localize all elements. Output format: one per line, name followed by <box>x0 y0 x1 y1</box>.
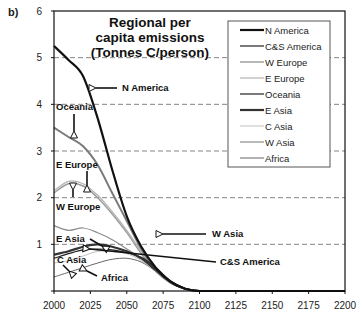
annotation-label: W Asia <box>212 228 244 239</box>
emissions-chart: 123456 200020252050207521002125215021752… <box>0 0 358 313</box>
y-tick-label: 2 <box>36 192 42 203</box>
y-tick-label: 1 <box>36 239 42 250</box>
chart-title-line: Regional per <box>109 15 192 30</box>
series-line-c-s-america <box>54 249 345 291</box>
annotation-label: N America <box>122 82 169 93</box>
chart-title-line: (Tonnes C/person) <box>91 45 209 60</box>
legend-entry: W Asia <box>265 137 295 148</box>
x-tick-label: 2150 <box>261 300 284 311</box>
annotation-label: C Asia <box>57 254 87 265</box>
legend-entry: Oceania <box>265 89 301 100</box>
x-axis-ticks: 200020252050207521002125215021752200 <box>43 291 357 311</box>
legend: N AmericaC&S AmericaW EuropeE EuropeOcea… <box>228 21 330 167</box>
annotation-arrow <box>63 265 69 271</box>
annotation-label: W Europe <box>56 201 100 212</box>
x-tick-label: 2050 <box>116 300 139 311</box>
x-tick-label: 2100 <box>188 300 211 311</box>
x-tick-label: 2075 <box>152 300 175 311</box>
annotation-label: E Asia <box>56 233 85 244</box>
x-tick-label: 2200 <box>334 300 357 311</box>
series-line-w-asia <box>54 226 345 291</box>
series-line-africa <box>54 258 345 291</box>
annotation-label: C&S America <box>220 256 281 267</box>
y-axis-ticks: 123456 <box>36 6 54 292</box>
legend-entry: W Europe <box>265 57 307 68</box>
x-tick-label: 2175 <box>298 300 321 311</box>
series-line-w-europe <box>54 183 345 291</box>
legend-entry: Africa <box>265 153 290 164</box>
x-tick-label: 2025 <box>79 300 102 311</box>
annotation-arrow <box>87 271 97 276</box>
y-tick-label: 4 <box>36 99 42 110</box>
legend-entry: E Asia <box>265 105 293 116</box>
legend-entry: C&S America <box>265 41 322 52</box>
annotation-label: Oceania <box>56 101 94 112</box>
series-line-c-asia <box>54 251 345 291</box>
legend-entry: C Asia <box>265 121 293 132</box>
annotation-label: Africa <box>101 272 129 283</box>
y-tick-label: 3 <box>36 146 42 157</box>
x-tick-label: 2125 <box>225 300 248 311</box>
x-tick-label: 2000 <box>43 300 66 311</box>
chart-title-line: capita emissions <box>96 30 205 45</box>
legend-entry: E Europe <box>265 73 305 84</box>
chart-title: Regional percapita emissions(Tonnes C/pe… <box>91 15 209 60</box>
y-tick-label: 5 <box>36 52 42 63</box>
y-tick-label: 6 <box>36 6 42 17</box>
annotation-label: E Europe <box>56 159 98 170</box>
legend-entry: N America <box>265 25 310 36</box>
